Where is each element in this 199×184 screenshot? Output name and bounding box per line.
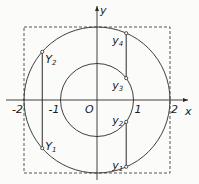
chord-point — [125, 120, 128, 123]
tick-label: 2 — [171, 103, 178, 116]
point-label-Y1: Y1 — [45, 140, 56, 154]
chord-point — [125, 32, 128, 35]
chord-point — [125, 165, 128, 168]
origin-label: O — [85, 103, 94, 116]
tick-label: -2 — [12, 103, 23, 116]
y-axis-arrow-icon — [95, 6, 99, 11]
chord-point — [41, 50, 44, 53]
x-axis-label: x — [184, 105, 192, 118]
y-axis-label: y — [99, 4, 107, 17]
tick-label: -1 — [49, 103, 60, 116]
point-label-y1: y1 — [111, 159, 123, 173]
chord-point — [125, 77, 128, 80]
point-label-Y2: Y2 — [45, 53, 57, 67]
tick-label: 1 — [135, 103, 142, 116]
annulus-diagram: xyO-2-112Y2Y1y4y3y2y1 — [0, 0, 199, 184]
point-label-y2: y2 — [111, 114, 124, 128]
point-label-y3: y3 — [111, 79, 123, 93]
x-axis-arrow-icon — [183, 98, 188, 102]
point-label-y4: y4 — [111, 34, 123, 48]
chord-point — [41, 147, 44, 150]
